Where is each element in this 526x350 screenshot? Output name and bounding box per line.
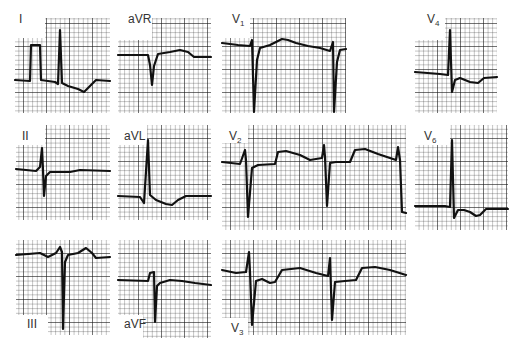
lead-label-v6: V6: [424, 130, 436, 145]
lead-name: V: [229, 129, 237, 143]
lead-name: V: [232, 12, 240, 26]
lead-name: aVF: [124, 317, 146, 331]
lead-name: II: [22, 129, 29, 143]
lead-panel-avr: [118, 18, 211, 113]
lead-panel-ii: [16, 125, 110, 220]
lead-name: I: [19, 12, 22, 26]
lead-name: V: [424, 129, 432, 143]
lead-label-v4: V4: [427, 13, 439, 28]
lead-panel-i: [15, 18, 110, 113]
ecg-grid-major: [222, 18, 346, 113]
lead-label-v3: V3: [231, 322, 243, 337]
lead-name: III: [27, 317, 37, 331]
lead-label-iii: III: [27, 318, 37, 330]
lead-subscript: 4: [435, 19, 439, 28]
ecg-panels: [15, 18, 508, 338]
lead-label-v2: V2: [229, 130, 241, 145]
lead-name: V: [231, 321, 239, 335]
lead-panel-v3: [222, 240, 406, 335]
lead-name: V: [427, 12, 435, 26]
lead-label-avr: aVR: [128, 13, 151, 25]
lead-label-ii: II: [22, 130, 29, 142]
lead-subscript: 2: [237, 136, 241, 145]
lead-subscript: 6: [432, 136, 436, 145]
ecg-figure: [0, 0, 526, 350]
lead-panel-v1: [222, 18, 346, 113]
ecg-grid-major: [118, 18, 211, 113]
lead-name: aVL: [124, 129, 145, 143]
lead-label-i: I: [19, 13, 22, 25]
lead-name: aVR: [128, 12, 151, 26]
lead-subscript: 3: [239, 328, 243, 337]
lead-subscript: 1: [240, 19, 244, 28]
ecg-grid-major: [222, 125, 406, 230]
lead-label-v1: V1: [232, 13, 244, 28]
lead-panel-v2: [222, 125, 406, 230]
lead-label-avf: aVF: [124, 318, 146, 330]
lead-panel-v4: [415, 18, 497, 113]
ecg-grid-major: [15, 18, 110, 113]
ecg-grid-major: [415, 18, 497, 113]
lead-label-avl: aVL: [124, 130, 145, 142]
